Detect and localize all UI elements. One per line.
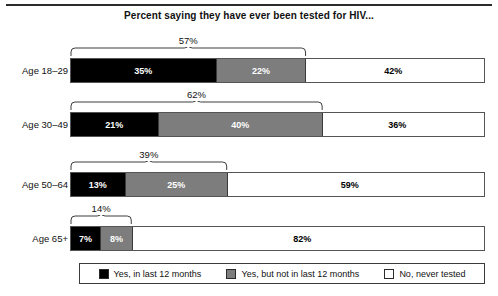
- segment-yes-not-last-12-months[interactable]: 8%: [100, 227, 133, 250]
- legend-label: Yes, but not in last 12 months: [241, 269, 359, 279]
- segment-value-label: 59%: [341, 180, 359, 190]
- stacked-bar: 35%22%42%: [70, 58, 485, 83]
- segment-yes-not-last-12-months[interactable]: 22%: [216, 59, 307, 82]
- row-total-label: 57%: [179, 35, 198, 46]
- stacked-bar: 7%8%82%: [70, 226, 485, 251]
- white-swatch-icon: [384, 269, 394, 279]
- row-total-label: 14%: [92, 203, 111, 214]
- segment-value-label: 36%: [388, 120, 406, 130]
- segment-value-label: 82%: [293, 234, 311, 244]
- total-brace: [70, 215, 132, 224]
- segment-value-label: 40%: [231, 120, 249, 130]
- segment-value-label: 21%: [105, 120, 123, 130]
- total-brace: [70, 47, 307, 56]
- segment-no-never-tested[interactable]: 42%: [306, 59, 479, 82]
- total-brace: [70, 101, 323, 110]
- segment-no-never-tested[interactable]: 82%: [133, 227, 472, 250]
- segment-no-never-tested[interactable]: 59%: [228, 173, 472, 196]
- total-brace: [70, 161, 228, 170]
- segment-value-label: 8%: [110, 234, 123, 244]
- legend-label: No, never tested: [399, 269, 465, 279]
- legend-item-no-never-tested[interactable]: No, never tested: [384, 269, 465, 279]
- chart-figure: Percent saying they have ever been teste…: [0, 0, 498, 296]
- legend-item-yes-last-12-months[interactable]: Yes, in last 12 months: [99, 269, 202, 279]
- segment-value-label: 25%: [167, 180, 185, 190]
- brace-icon: [70, 215, 132, 224]
- brace-icon: [70, 47, 307, 56]
- segment-yes-last-12-months[interactable]: 7%: [71, 227, 100, 250]
- brace-icon: [70, 161, 228, 170]
- segment-value-label: 22%: [252, 66, 270, 76]
- row-category-label: Age 18–29: [6, 65, 68, 76]
- segment-yes-last-12-months[interactable]: 35%: [71, 59, 216, 82]
- legend-label: Yes, in last 12 months: [114, 269, 202, 279]
- segment-yes-last-12-months[interactable]: 13%: [71, 173, 125, 196]
- segment-value-label: 35%: [134, 66, 152, 76]
- chart-plot-area: Age 18–2935%22%42%57%Age 30–4921%40%36%6…: [0, 0, 498, 296]
- chart-legend: Yes, in last 12 months Yes, but not in l…: [79, 263, 485, 284]
- black-swatch-icon: [99, 269, 109, 279]
- segment-value-label: 7%: [79, 234, 92, 244]
- segment-value-label: 42%: [384, 66, 402, 76]
- row-total-label: 62%: [187, 89, 206, 100]
- segment-yes-not-last-12-months[interactable]: 40%: [158, 113, 323, 136]
- gray-swatch-icon: [226, 269, 236, 279]
- segment-value-label: 13%: [89, 180, 107, 190]
- stacked-bar: 13%25%59%: [70, 172, 485, 197]
- row-category-label: Age 65+: [6, 233, 68, 244]
- row-category-label: Age 30–49: [6, 119, 68, 130]
- stacked-bar: 21%40%36%: [70, 112, 485, 137]
- segment-yes-not-last-12-months[interactable]: 25%: [125, 173, 228, 196]
- legend-item-yes-not-last-12-months[interactable]: Yes, but not in last 12 months: [226, 269, 359, 279]
- brace-icon: [70, 101, 323, 110]
- segment-yes-last-12-months[interactable]: 21%: [71, 113, 158, 136]
- segment-no-never-tested[interactable]: 36%: [323, 113, 472, 136]
- row-total-label: 39%: [139, 149, 158, 160]
- row-category-label: Age 50–64: [6, 179, 68, 190]
